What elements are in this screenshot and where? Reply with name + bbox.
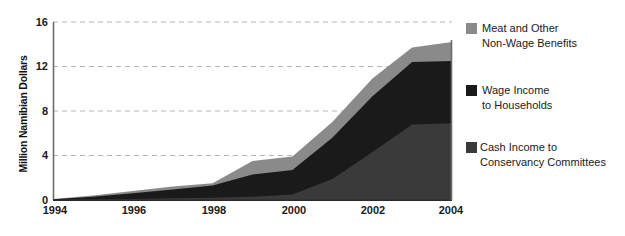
legend-swatch-cash-icon bbox=[466, 142, 477, 153]
legend-label-meat-and-other-non-wage-benefits: Meat and Other Non-Wage Benefits bbox=[482, 21, 577, 50]
x-axis-tick-1996: 1996 bbox=[104, 204, 164, 216]
x-axis-tick-1998: 1998 bbox=[184, 204, 244, 216]
legend-item-meat-and-other-non-wage-benefits[interactable]: Meat and Other Non-Wage Benefits bbox=[466, 21, 577, 50]
x-axis-tick-2000: 2000 bbox=[264, 204, 324, 216]
legend-item-cash-income-to-conservancy-committees[interactable]: Cash Income to Conservancy Committees bbox=[466, 140, 606, 169]
legend-item-wage-income-to-households[interactable]: Wage Income to Households bbox=[466, 83, 552, 112]
chart-legend: Meat and Other Non-Wage Benefits Wage In… bbox=[466, 0, 625, 236]
series-areas bbox=[53, 42, 452, 200]
legend-label-wage-income-to-households: Wage Income to Households bbox=[482, 83, 552, 112]
legend-swatch-meat-icon bbox=[466, 23, 477, 34]
x-axis-tick-1994: 1994 bbox=[25, 204, 85, 216]
x-axis-tick-2002: 2002 bbox=[343, 204, 403, 216]
stacked-area-chart: Million Namibian Dollars 16 12 8 4 0 bbox=[0, 0, 625, 236]
legend-swatch-wage-icon bbox=[466, 85, 477, 96]
legend-label-cash-income-to-conservancy-committees: Cash Income to Conservancy Committees bbox=[480, 140, 606, 169]
